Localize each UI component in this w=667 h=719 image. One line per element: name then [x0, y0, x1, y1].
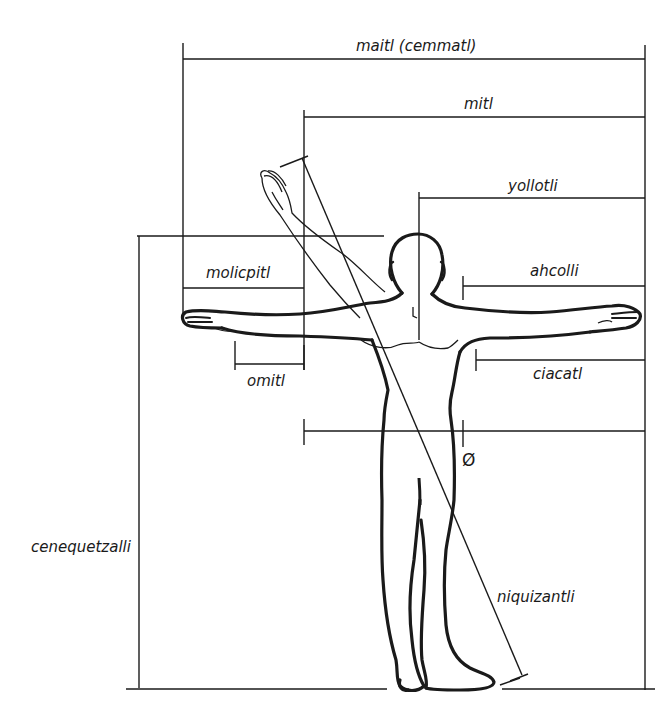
diagram-canvas — [0, 0, 667, 719]
label-niquizantli: niquizantli — [497, 590, 575, 605]
human-figure — [183, 234, 641, 691]
label-mitl: mitl — [464, 97, 493, 112]
label-ciacatl: ciacatl — [533, 367, 582, 382]
proportion-diagram: maitl (cemmatl) mitl yollotli molicpitl … — [0, 0, 667, 719]
label-maitl-cemmatl: maitl (cemmatl) — [356, 39, 476, 54]
label-cenequetzalli: cenequetzalli — [31, 540, 131, 555]
raised-arm — [261, 171, 385, 318]
label-molicpitl: molicpitl — [206, 266, 270, 281]
diameter-symbol: Ø — [462, 452, 475, 469]
label-ahcolli: ahcolli — [530, 264, 579, 279]
label-omitl: omitl — [247, 374, 285, 389]
label-yollotli: yollotli — [508, 179, 558, 194]
